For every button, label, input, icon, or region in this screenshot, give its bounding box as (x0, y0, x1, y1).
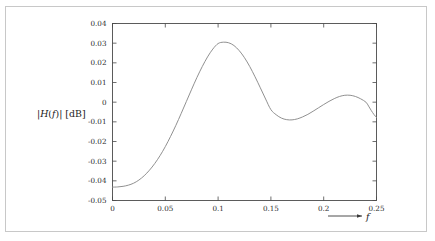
y-tick-label: -0.04 (88, 176, 107, 185)
x-tick-label: 0.2 (318, 204, 329, 213)
x-axis-title-group: f (328, 211, 371, 222)
y-tick-label: 0.03 (90, 39, 106, 48)
y-tick-label: 0.02 (90, 58, 106, 67)
figure-canvas: 0.040.030.020.010-0.01-0.02-0.03-0.04-0.… (0, 0, 435, 241)
x-axis-tick-labels: 00.050.10.150.20.25 (110, 204, 385, 213)
x-tick-label: 0.15 (263, 204, 279, 213)
y-tick-label: 0 (102, 98, 107, 107)
x-tick-label: 0.25 (368, 204, 384, 213)
x-axis-ticks (113, 24, 377, 201)
chart-plot: 0.040.030.020.010-0.01-0.02-0.03-0.04-0.… (0, 0, 435, 241)
arrow-head-icon (357, 214, 362, 218)
y-tick-label: 0.01 (90, 78, 106, 87)
x-tick-label: 0.1 (212, 204, 223, 213)
y-tick-label: -0.03 (88, 157, 107, 166)
y-title-unit: [dB] (62, 108, 85, 119)
magnitude-response-curve (113, 42, 377, 187)
plot-frame (113, 24, 377, 201)
y-tick-label: 0.04 (90, 19, 106, 28)
y-tick-label: -0.02 (88, 137, 106, 146)
y-tick-label: -0.01 (88, 117, 106, 126)
y-axis-title: |H(f)| [dB] (37, 108, 86, 120)
y-axis-tick-labels: 0.040.030.020.010-0.01-0.02-0.03-0.04-0.… (88, 19, 107, 205)
y-axis-ticks (113, 24, 377, 201)
y-tick-label: -0.05 (88, 196, 107, 205)
x-tick-label: 0 (110, 204, 115, 213)
x-tick-label: 0.05 (157, 204, 173, 213)
